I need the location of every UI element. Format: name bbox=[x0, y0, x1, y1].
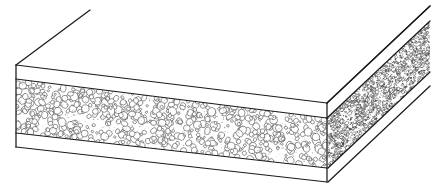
figure-canvas: Sandwich panel cutaway illustration top … bbox=[0, 0, 431, 192]
sandwich-panel-drawing bbox=[0, 0, 431, 192]
